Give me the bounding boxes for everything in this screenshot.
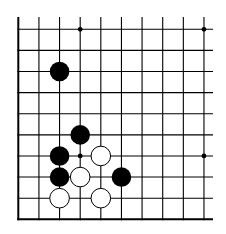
- go-board-canvas: [0, 0, 226, 234]
- black-stone[interactable]: [50, 167, 70, 187]
- grid-lines: [17, 17, 213, 220]
- white-stone[interactable]: [50, 188, 70, 208]
- star-point-icon: [78, 27, 83, 32]
- go-board: [0, 0, 226, 234]
- star-point-icon: [202, 154, 207, 159]
- white-stone[interactable]: [70, 167, 90, 187]
- star-point-icon: [78, 154, 83, 159]
- black-stone[interactable]: [50, 62, 70, 82]
- black-stone[interactable]: [112, 167, 132, 187]
- black-stone[interactable]: [70, 125, 90, 145]
- white-stone[interactable]: [91, 188, 111, 208]
- white-stone[interactable]: [91, 146, 111, 166]
- black-stone[interactable]: [50, 146, 70, 166]
- star-point-icon: [202, 27, 207, 32]
